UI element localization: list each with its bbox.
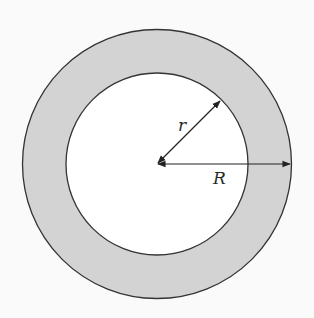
annulus-diagram: r R — [0, 0, 314, 318]
outer-radius-label: R — [212, 168, 226, 188]
inner-radius-label: r — [178, 115, 187, 135]
diagram-svg: r R — [0, 0, 314, 318]
